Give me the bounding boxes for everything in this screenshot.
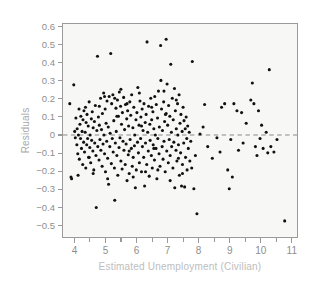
x-tick-mark	[214, 238, 215, 242]
data-points-layer	[63, 24, 297, 237]
x-tick-mark	[276, 238, 277, 242]
x-tick-label: 4	[72, 246, 78, 256]
y-tick-label: −0.2	[36, 166, 58, 176]
x-tick-mark	[89, 238, 90, 242]
x-tick-mark	[183, 238, 184, 242]
x-tick-mark	[291, 238, 292, 243]
x-tick-mark	[120, 238, 121, 242]
x-tick-label: 10	[255, 246, 266, 256]
x-tick-mark	[74, 238, 75, 243]
x-tick-mark	[167, 238, 168, 243]
y-tick-label: −0.5	[36, 221, 58, 231]
x-tick-mark	[152, 238, 153, 242]
plot-area	[62, 23, 298, 238]
x-tick-label: 6	[134, 246, 140, 256]
x-tick-mark	[105, 238, 106, 243]
x-tick-label: 7	[165, 246, 171, 256]
y-tick-label: 0.5	[42, 40, 58, 50]
scatter-plot-figure: 0.60.50.40.30.20.10−0.1−0.2−0.3−0.4−0.5 …	[0, 0, 316, 286]
y-tick-label: −0.3	[36, 184, 58, 194]
y-axis-title: Residuals	[14, 23, 36, 238]
x-tick-mark	[260, 238, 261, 243]
x-tick-mark	[198, 238, 199, 243]
x-tick-mark	[136, 238, 137, 243]
x-tick-mark	[229, 238, 230, 243]
y-tick-label: 0.1	[42, 112, 58, 122]
y-tick-label: −0.4	[36, 203, 58, 213]
y-tick-label: 0.3	[42, 76, 58, 86]
x-tick-label: 8	[196, 246, 202, 256]
y-tick-label: 0.4	[42, 58, 58, 68]
y-tick-label: 0.6	[42, 22, 58, 32]
x-axis-title: Estimated Unemployment (Civilian)	[62, 261, 298, 272]
y-tick-label: 0	[50, 130, 58, 140]
y-tick-label: 0.2	[42, 94, 58, 104]
y-tick-label: −0.1	[36, 148, 58, 158]
x-tick-label: 9	[227, 246, 233, 256]
x-tick-label: 5	[103, 246, 109, 256]
x-tick-label: 11	[287, 246, 297, 256]
x-tick-mark	[245, 238, 246, 242]
